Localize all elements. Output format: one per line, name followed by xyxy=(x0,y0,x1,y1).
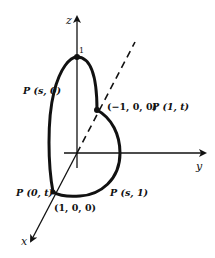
label-p-0-t: P (0, t) xyxy=(15,187,53,199)
z-tick-one: 1 xyxy=(79,46,84,55)
label-p-1-t: P (1, t) xyxy=(151,101,189,113)
label-pos-x-coords: (1, 0, 0) xyxy=(54,202,96,214)
x-axis-label: x xyxy=(21,235,28,248)
parametric-surface-diagram: z y x 1 P (s, 0) (−1, 0, 0) P (1, t) P (… xyxy=(0,0,215,258)
curve-top-right-arc xyxy=(77,57,97,110)
curve-left-arc xyxy=(49,57,77,192)
point-neg-x xyxy=(94,107,100,113)
label-neg-x-coords: (−1, 0, 0) xyxy=(107,101,157,113)
y-axis-label: y xyxy=(195,160,203,173)
label-p-s-1: P (s, 1) xyxy=(109,187,148,199)
z-axis-label: z xyxy=(65,14,72,27)
label-p-s-0: P (s, 0) xyxy=(22,85,61,97)
